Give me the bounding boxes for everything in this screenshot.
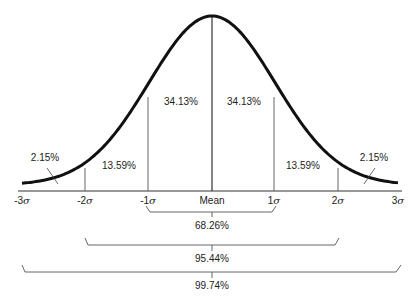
region-label-plus2-plus3: 2.15%: [360, 152, 388, 163]
bracket-3sigma: [22, 265, 401, 272]
region-label-mean-plus1: 34.13%: [227, 96, 261, 107]
tick-minus-3sigma: -3σ: [14, 195, 30, 206]
bracket-1sigma: [146, 206, 276, 212]
bracket-label-99: 99.74%: [195, 280, 229, 291]
region-label-minus1-mean: 34.13%: [164, 96, 198, 107]
tick-mean: Mean: [199, 195, 224, 206]
tick-plus-1sigma: 1σ: [268, 195, 280, 206]
bracket-label-68: 68.26%: [195, 220, 229, 231]
tick-plus-2sigma: 2σ: [332, 195, 344, 206]
region-label-plus1-plus2: 13.59%: [286, 160, 320, 171]
tick-minus-2sigma: -2σ: [77, 195, 93, 206]
tick-plus-3sigma: 3σ: [392, 195, 404, 206]
region-label-minus3-minus2: 2.15%: [31, 152, 59, 163]
bracket-label-95: 95.44%: [195, 253, 229, 264]
region-label-minus2-minus1: 13.59%: [102, 160, 136, 171]
tick-minus-1sigma: -1σ: [140, 195, 156, 206]
bracket-2sigma: [85, 238, 339, 245]
bell-curve: [22, 16, 398, 183]
